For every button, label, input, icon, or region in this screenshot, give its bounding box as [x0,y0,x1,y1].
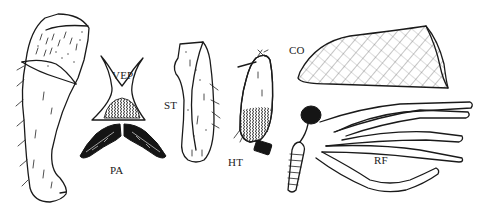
label-rf: RF [374,155,388,166]
pa-structure [80,124,166,158]
co-structure [298,26,448,88]
rf-structure [288,102,472,192]
label-st: ST [164,100,177,111]
leg-segment [16,14,89,202]
label-co: CO [289,45,305,56]
vep-structure [92,56,145,120]
st-structure [174,42,220,162]
anatomy-drawing [0,0,483,213]
label-ht: HT [228,157,243,168]
label-pa: PA [110,165,123,176]
label-vep: VEP [112,70,133,81]
ht-structure [234,50,273,155]
anatomy-figure: VEP PA ST HT CO RF [0,0,483,213]
coiled-tube [288,142,305,192]
